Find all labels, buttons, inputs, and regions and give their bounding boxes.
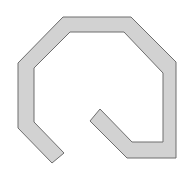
diagram-svg bbox=[0, 0, 179, 176]
open-loop-shape bbox=[18, 17, 176, 163]
diagram-canvas bbox=[0, 0, 179, 176]
